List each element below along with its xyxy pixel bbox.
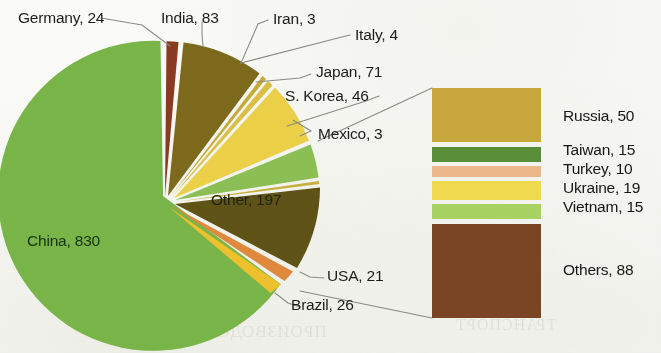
pie-label-brazil: Brazil, 26 bbox=[291, 297, 354, 313]
breakout-segment-ukraine[interactable] bbox=[432, 181, 541, 200]
pie-label-other: Other, 197 bbox=[211, 192, 281, 208]
breakout-label-vietnam: Vietnam, 15 bbox=[563, 199, 643, 215]
breakout-segment-taiwan[interactable] bbox=[432, 147, 541, 162]
breakout-label-taiwan: Taiwan, 15 bbox=[563, 142, 635, 158]
breakout-label-others: Others, 88 bbox=[563, 262, 633, 278]
pie-label-usa: USA, 21 bbox=[327, 268, 383, 284]
pie-label-italy: Italy, 4 bbox=[355, 27, 398, 43]
chart-canvas: ПРОИЗВОДСТВО ТРАНСПОРТ bbox=[0, 0, 661, 353]
pie-label-india: India, 83 bbox=[161, 10, 219, 26]
breakout-segment-others[interactable] bbox=[432, 224, 541, 318]
pie-label-iran: Iran, 3 bbox=[273, 11, 316, 27]
pie-label-skorea: S. Korea, 46 bbox=[285, 88, 369, 104]
breakout-segment-russia[interactable] bbox=[432, 88, 541, 142]
pie-label-mexico: Mexico, 3 bbox=[318, 126, 383, 142]
breakout-label-ukraine: Ukraine, 19 bbox=[563, 180, 640, 196]
breakout-segment-turkey[interactable] bbox=[432, 166, 541, 177]
pie-label-china: China, 830 bbox=[27, 233, 100, 249]
pie-label-germany: Germany, 24 bbox=[18, 10, 104, 26]
pie-label-japan: Japan, 71 bbox=[316, 64, 382, 80]
breakout-label-turkey: Turkey, 10 bbox=[563, 161, 633, 177]
breakout-label-russia: Russia, 50 bbox=[563, 108, 634, 124]
breakout-segment-vietnam[interactable] bbox=[432, 204, 541, 219]
